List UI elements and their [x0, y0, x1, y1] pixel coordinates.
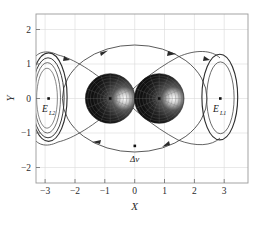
- equilibrium-label-right-subscript: L1: [219, 110, 226, 116]
- y-tick-label: −2: [21, 163, 31, 173]
- y-tick-label: 1: [26, 59, 31, 69]
- y-axis-title: Y: [4, 94, 16, 102]
- equilibrium-point-left: [47, 97, 50, 100]
- plot-canvas: 2 1 0 −1 −2 −3 −2 −1 0 1 2 3 X Y E L2 E …: [0, 0, 260, 226]
- delta-v-label: Δv: [129, 154, 139, 164]
- primary-sphere-right: [134, 74, 184, 124]
- equilibrium-label-left-text: E: [41, 104, 48, 114]
- y-tick-label: 2: [26, 25, 31, 35]
- primary-center-right: [158, 97, 161, 100]
- orbit-transfer-figure: 2 1 0 −1 −2 −3 −2 −1 0 1 2 3 X Y E L2 E …: [0, 0, 260, 226]
- x-tick-label: 1: [162, 186, 167, 196]
- x-tick-label: −1: [100, 186, 110, 196]
- x-tick-label: 0: [132, 186, 137, 196]
- primary-sphere-left: [85, 74, 135, 124]
- primary-center-left: [109, 97, 112, 100]
- y-tick-label: 0: [26, 94, 31, 104]
- x-tick-label: 3: [222, 186, 227, 196]
- equilibrium-label-right-text: E: [212, 104, 219, 114]
- x-tick-label: −3: [40, 186, 50, 196]
- x-tick-label: 2: [192, 186, 197, 196]
- equilibrium-label-left-subscript: L2: [48, 110, 55, 116]
- x-tick-label: −2: [70, 186, 80, 196]
- x-axis-title: X: [130, 200, 139, 212]
- equilibrium-point-right: [219, 97, 222, 100]
- y-tick-label: −1: [21, 128, 31, 138]
- delta-v-point: [134, 145, 137, 148]
